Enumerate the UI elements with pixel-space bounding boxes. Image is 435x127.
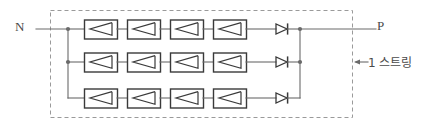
pv-string-diagram: N P 1 스트링 [0, 0, 435, 127]
junction-dot-right [298, 60, 302, 64]
terminal-label-positive: P [377, 18, 384, 34]
terminal-label-negative: N [15, 19, 24, 35]
blocking-diode-icon [276, 57, 287, 67]
blocking-diode-icon [276, 24, 287, 34]
junction-dot-left [66, 27, 70, 31]
junction-dot-right [298, 27, 302, 31]
junction-dot-left [66, 60, 70, 64]
string-annotation-label: 1 스트링 [368, 53, 412, 70]
string-annotation-arrowhead-icon [354, 59, 360, 64]
blocking-diode-icon [276, 93, 287, 103]
